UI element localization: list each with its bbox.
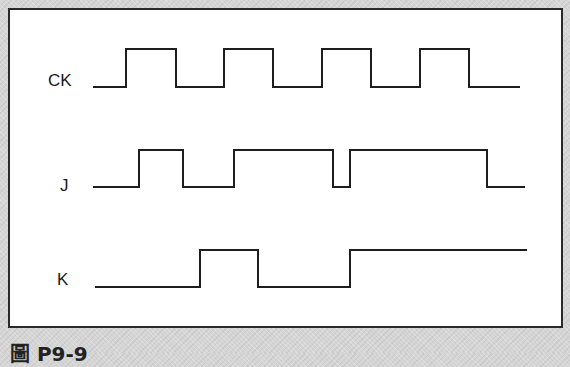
ck-waveform	[93, 49, 520, 87]
k-label: K	[57, 270, 68, 290]
j-waveform	[93, 150, 525, 187]
j-label: J	[60, 176, 69, 196]
ck-label: CK	[48, 71, 72, 91]
k-waveform	[95, 250, 527, 287]
figure-caption: 圖 P9-9	[10, 338, 88, 367]
